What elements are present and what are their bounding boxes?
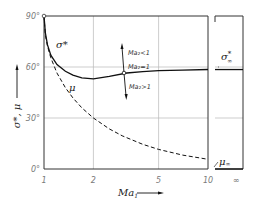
- x-tick-infinity: ∞: [233, 176, 240, 185]
- arrow-up-icon: [121, 43, 124, 49]
- mu-label: μ: [69, 82, 76, 93]
- mu-infinity-label: μ∞: [219, 156, 231, 167]
- x-tick-10: 10: [203, 176, 213, 185]
- y-tick-90: 90°: [26, 12, 40, 21]
- y-tick-30: 30°: [26, 114, 40, 123]
- arrow-up-icon: [16, 64, 19, 70]
- arrow-down-icon: [125, 94, 128, 100]
- x-axis-label: Ma1: [117, 187, 164, 199]
- sigma-infinity-label: σ*∞: [221, 50, 232, 64]
- sonic-point-marker: [122, 71, 126, 75]
- y-tick-0: 0°: [31, 165, 40, 174]
- y-axis-label: σ*, μ: [11, 64, 22, 128]
- sigma-star-label: σ*: [56, 39, 68, 50]
- ma2-lt-1-label: Ma₂<1: [128, 49, 150, 57]
- infinity-panel: [215, 16, 243, 169]
- chart-canvas: 90° 60° 30° 0° 1 2 5 10 ∞ σ* μ σ*∞ μ∞ Ma…: [0, 0, 254, 209]
- ma2-gt-1-label: Ma₂>1: [129, 83, 151, 91]
- ma2-eq-1-label: Ma₂=1: [128, 63, 150, 71]
- x-tick-2: 2: [91, 176, 96, 185]
- arrow-right-icon: [158, 192, 164, 195]
- y-tick-60: 60°: [26, 63, 40, 72]
- origin-marker: [42, 14, 46, 18]
- x-tick-1: 1: [41, 176, 46, 185]
- sonic-point-annotation: [121, 43, 128, 100]
- x-tick-5: 5: [156, 176, 161, 185]
- svg-text:σ*, μ: σ*, μ: [11, 104, 22, 129]
- svg-text:Ma1: Ma1: [117, 187, 138, 199]
- sigma-star-curve: [44, 16, 208, 79]
